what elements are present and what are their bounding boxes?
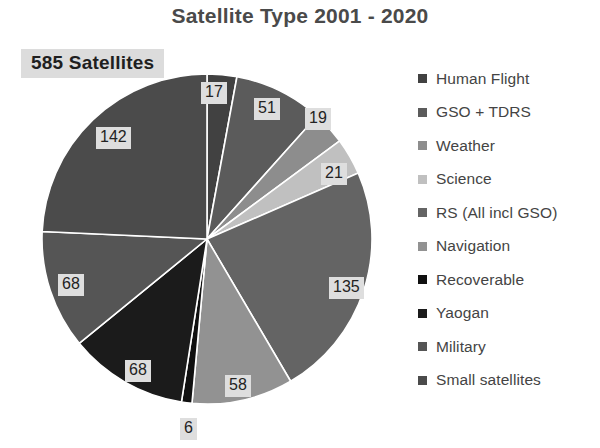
legend-swatch-icon [418,275,427,284]
pie-chart-figure: Satellite Type 2001 - 2020 585 Satellite… [0,0,600,448]
legend-item-label: Yaogan [436,304,489,322]
legend-swatch-icon [418,242,427,251]
legend-item-label: RS (All incl GSO) [436,204,557,222]
legend-item[interactable]: Science [418,163,594,197]
slice-value-label: 51 [254,98,280,120]
legend-swatch-icon [418,74,427,83]
legend-item[interactable]: RS (All incl GSO) [418,196,594,230]
legend-item[interactable]: Military [418,330,594,364]
legend-item-label: Human Flight [436,70,529,88]
legend-item[interactable]: Yaogan [418,297,594,331]
legend-item[interactable]: Human Flight [418,62,594,96]
legend-item[interactable]: Small satellites [418,364,594,398]
legend-item-label: Navigation [436,237,510,255]
chart-title: Satellite Type 2001 - 2020 [0,4,600,28]
legend-item[interactable]: Navigation [418,230,594,264]
slice-value-label: 135 [329,277,364,299]
slice-value-label: 21 [321,163,347,185]
slice-value-label: 19 [305,108,331,130]
legend-item[interactable]: Recoverable [418,263,594,297]
legend-swatch-icon [418,108,427,117]
legend-swatch-icon [418,208,427,217]
legend-swatch-icon [418,141,427,150]
legend-item-label: Recoverable [436,271,524,289]
slice-value-label: 6 [180,418,197,440]
legend-swatch-icon [418,376,427,385]
slice-value-label: 17 [201,82,227,104]
legend-item-label: Science [436,170,492,188]
legend-item[interactable]: Weather [418,129,594,163]
legend-item-label: Small satellites [436,371,541,389]
legend-swatch-icon [418,309,427,318]
legend-swatch-icon [418,342,427,351]
slice-value-label: 68 [58,274,84,296]
slice-value-label: 58 [225,375,251,397]
legend-item[interactable]: GSO + TDRS [418,96,594,130]
slice-value-label: 68 [125,360,151,382]
slice-value-label: 142 [96,127,131,149]
legend-item-label: GSO + TDRS [436,103,531,121]
legend-item-label: Weather [436,137,495,155]
legend-swatch-icon [418,175,427,184]
legend-item-label: Military [436,338,486,356]
chart-legend: Human FlightGSO + TDRSWeatherScienceRS (… [418,62,594,397]
pie-slice[interactable] [42,74,207,239]
